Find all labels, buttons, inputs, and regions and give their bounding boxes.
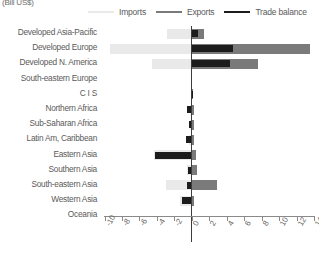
chart-row: Latin Am, Caribbean — [0, 132, 319, 147]
chart-row: Developed Asia-Pacific — [0, 26, 319, 41]
x-tick-label: 6 — [243, 219, 253, 227]
x-tick-label: 4 — [226, 219, 236, 227]
row-bars — [0, 148, 319, 163]
bar-trade-balance — [155, 152, 192, 159]
legend-item-exports: Exports — [156, 7, 214, 17]
legend-label-imports: Imports — [119, 7, 146, 17]
legend-swatch-trade-balance — [224, 11, 250, 13]
x-tick-label: 8 — [261, 219, 271, 227]
chart-row: South-eastern Europe — [0, 72, 319, 87]
bar-imports — [110, 44, 192, 54]
chart-row: Sub-Saharan Africa — [0, 117, 319, 132]
chart-row: Developed N. America — [0, 56, 319, 71]
x-tick-label: -2 — [173, 217, 184, 227]
x-tick-label: 10 — [278, 216, 290, 228]
bar-trade-balance — [192, 45, 233, 52]
x-tick-label: -8 — [121, 217, 132, 227]
chart-row: Eastern Asia — [0, 148, 319, 163]
chart-row: C I S — [0, 87, 319, 102]
bar-imports — [152, 59, 192, 69]
x-tick-label: -4 — [156, 217, 167, 227]
chart-row: Northern Africa — [0, 102, 319, 117]
chart-row: South-eastern Asia — [0, 178, 319, 193]
row-bars — [0, 72, 319, 87]
x-tick-label: -6 — [138, 217, 149, 227]
chart-legend: Imports Exports Trade balance — [88, 7, 307, 17]
units-label: (Bill US$) — [2, 0, 34, 7]
row-bars — [0, 178, 319, 193]
bar-trade-balance — [192, 30, 198, 37]
row-bars — [0, 193, 319, 208]
row-bars — [0, 102, 319, 117]
chart-row: Southern Asia — [0, 163, 319, 178]
zero-axis-line — [191, 26, 192, 242]
legend-item-trade-balance: Trade balance — [224, 7, 306, 17]
bar-trade-balance — [192, 60, 230, 67]
x-axis: -10-8-6-4-202468101214 — [0, 216, 319, 276]
legend-label-exports: Exports — [187, 7, 214, 17]
legend-swatch-imports — [88, 11, 114, 13]
bar-exports — [192, 165, 197, 175]
x-tick-label: 0 — [191, 219, 201, 227]
legend-label-trade-balance: Trade balance — [255, 7, 306, 17]
bar-rows: Developed Asia-PacificDeveloped EuropeDe… — [0, 26, 319, 223]
row-bars — [0, 41, 319, 56]
row-bars — [0, 163, 319, 178]
legend-swatch-exports — [156, 11, 182, 13]
row-bars — [0, 87, 319, 102]
trade-bar-chart: (Bill US$) Imports Exports Trade balance… — [0, 0, 319, 276]
x-tick-label: 2 — [208, 219, 218, 227]
legend-item-imports: Imports — [88, 7, 146, 17]
bar-imports — [167, 29, 191, 39]
bar-exports — [192, 150, 196, 160]
row-bars — [0, 56, 319, 71]
row-bars — [0, 132, 319, 147]
plot-area: Developed Asia-PacificDeveloped EuropeDe… — [0, 26, 319, 244]
row-bars — [0, 26, 319, 41]
bar-exports — [192, 180, 217, 190]
row-bars — [0, 117, 319, 132]
chart-row: Developed Europe — [0, 41, 319, 56]
chart-row: Western Asia — [0, 193, 319, 208]
